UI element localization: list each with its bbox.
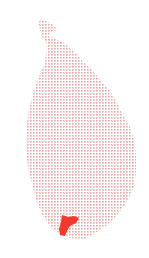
map — [0, 0, 149, 258]
country-outline — [26, 20, 136, 240]
